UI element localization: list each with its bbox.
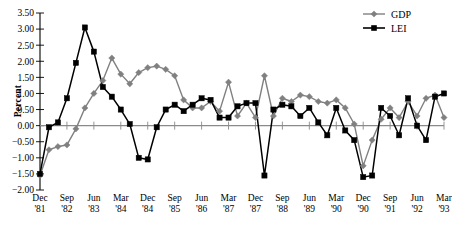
data-point-marker-lei <box>432 94 437 99</box>
data-point-marker-lei <box>154 125 159 130</box>
x-tick-label-month: Jun <box>195 193 208 203</box>
data-point-marker-lei <box>280 102 285 107</box>
data-point-marker-gdp <box>225 79 231 85</box>
data-point-marker-lei <box>181 109 186 114</box>
y-tick-label: −0.50 <box>12 137 34 147</box>
data-point-marker-lei <box>82 25 87 30</box>
y-tick-label: 2.50 <box>17 41 34 51</box>
legend-marker-square-lei <box>371 25 377 31</box>
chart-plot-area: 3.503.002.502.001.501.000.500.00−0.50−1.… <box>0 0 452 225</box>
data-point-marker-lei <box>388 113 393 118</box>
data-series-markers <box>37 25 447 180</box>
y-tick-label: 0.00 <box>17 121 34 131</box>
x-tick-label-month: Mar <box>113 193 130 203</box>
x-tick-label-month: Sep <box>275 193 290 203</box>
x-tick-label-year: '89 <box>304 204 315 214</box>
chart-legend: GDPLEI <box>363 9 411 34</box>
y-tick-label: −1.00 <box>12 153 34 163</box>
data-point-marker-lei <box>109 94 114 99</box>
data-point-marker-lei <box>405 96 410 101</box>
y-tick-label: 2.00 <box>17 57 34 67</box>
data-point-marker-lei <box>244 101 249 106</box>
x-tick-label-year: '93 <box>438 204 449 214</box>
data-point-marker-gdp <box>145 65 151 71</box>
x-tick-label-month: Mar <box>328 193 345 203</box>
data-series-lines <box>40 27 444 177</box>
x-tick-label-month: Mar <box>436 193 452 203</box>
data-point-marker-lei <box>217 115 222 120</box>
data-point-marker-lei <box>199 96 204 101</box>
data-point-marker-lei <box>262 173 267 178</box>
data-point-marker-lei <box>352 138 357 143</box>
data-point-marker-lei <box>370 173 375 178</box>
x-tick-label-year: '88 <box>277 204 288 214</box>
data-point-marker-lei <box>226 115 231 120</box>
data-point-marker-lei <box>334 105 339 110</box>
data-point-marker-gdp <box>423 95 429 101</box>
data-point-marker-lei <box>414 123 419 128</box>
data-point-marker-gdp <box>154 63 160 69</box>
y-tick-label: 1.50 <box>17 73 34 83</box>
x-tick-label-month: Jun <box>303 193 316 203</box>
x-tick-label-month: Dec <box>356 193 371 203</box>
data-point-marker-lei <box>379 105 384 110</box>
data-point-marker-gdp <box>46 147 52 153</box>
x-tick-label-year: '82 <box>61 204 72 214</box>
x-tick-label-year: '84 <box>142 204 153 214</box>
x-tick-label-month: Mar <box>221 193 238 203</box>
data-point-marker-gdp <box>369 137 375 143</box>
data-point-marker-lei <box>423 138 428 143</box>
y-tick-label: 1.00 <box>17 89 34 99</box>
data-point-marker-lei <box>343 128 348 133</box>
data-point-marker-lei <box>316 120 321 125</box>
data-point-marker-lei <box>145 157 150 162</box>
y-tick-label: −2.00 <box>12 185 34 195</box>
x-tick-label-year: '87 <box>250 204 261 214</box>
data-point-marker-gdp <box>279 95 285 101</box>
data-point-marker-lei <box>73 60 78 65</box>
data-point-marker-lei <box>127 121 132 126</box>
x-tick-label-year: '85 <box>169 204 180 214</box>
data-point-marker-lei <box>136 155 141 160</box>
data-point-marker-lei <box>64 96 69 101</box>
legend-label-lei: LEI <box>391 23 407 34</box>
x-tick-label-year: '87 <box>223 204 234 214</box>
x-tick-label-month: Jun <box>87 193 100 203</box>
y-tick-label: 3.00 <box>17 24 34 34</box>
x-tick-label-year: '90 <box>358 204 369 214</box>
x-tick-label-year: '90 <box>331 204 342 214</box>
data-point-marker-lei <box>172 102 177 107</box>
data-point-marker-lei <box>235 104 240 109</box>
data-point-marker-lei <box>55 120 60 125</box>
x-tick-label-year: '81 <box>34 204 45 214</box>
data-point-marker-gdp <box>315 98 321 104</box>
series-line-lei <box>40 27 444 177</box>
legend-label-gdp: GDP <box>391 9 411 20</box>
data-point-marker-gdp <box>82 105 88 111</box>
data-point-marker-lei <box>325 133 330 138</box>
data-point-marker-lei <box>163 107 168 112</box>
data-point-marker-gdp <box>109 55 115 61</box>
data-point-marker-gdp <box>324 100 330 106</box>
data-point-marker-gdp <box>64 142 70 148</box>
data-point-marker-gdp <box>351 121 357 127</box>
data-point-marker-lei <box>298 113 303 118</box>
data-point-marker-lei <box>37 171 42 176</box>
x-tick-label-month: Jun <box>410 193 423 203</box>
x-tick-label-month: Dec <box>32 193 47 203</box>
x-axis-tick-labels: Dec'81Sep'82Jun'83Mar'84Dec'84Sep'85Jun'… <box>32 193 452 214</box>
data-point-marker-lei <box>208 97 213 102</box>
x-tick-label-month: Sep <box>383 193 398 203</box>
data-point-marker-gdp <box>261 73 267 79</box>
data-point-marker-lei <box>46 125 51 130</box>
data-point-marker-lei <box>307 105 312 110</box>
data-point-marker-lei <box>118 107 123 112</box>
data-point-marker-lei <box>441 91 446 96</box>
data-point-marker-gdp <box>73 126 79 132</box>
y-tick-label: −1.50 <box>12 169 34 179</box>
x-tick-label-year: '84 <box>115 204 126 214</box>
data-point-marker-lei <box>100 84 105 89</box>
data-point-marker-lei <box>190 102 195 107</box>
data-point-marker-lei <box>91 49 96 54</box>
x-tick-label-month: Dec <box>248 193 263 203</box>
